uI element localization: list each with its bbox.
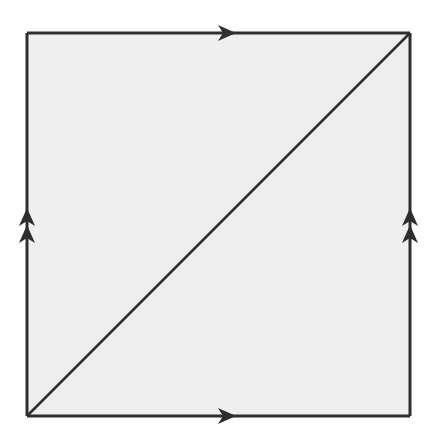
diagram-canvas (0, 0, 435, 440)
